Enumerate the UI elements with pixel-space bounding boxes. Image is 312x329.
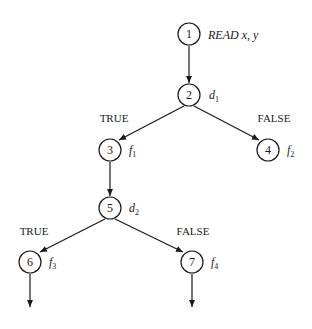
node-7: 7 f4 <box>181 251 218 273</box>
node-7-annotation: f4 <box>211 255 218 271</box>
node-6-label: 6 <box>27 255 33 269</box>
edge-5-7-false <box>115 219 183 252</box>
edge-2-4-false <box>194 106 259 140</box>
node-1: 1 READ x, y <box>178 23 259 45</box>
node-2-label: 2 <box>186 88 192 102</box>
node-3: 3 f1 <box>99 139 136 161</box>
edge-5-6-true <box>40 219 105 252</box>
control-flow-diagram: TRUE FALSE TRUE FALSE 1 READ x, y 2 d1 3… <box>0 0 312 329</box>
edge-2-3-true <box>119 106 184 140</box>
node-5-label: 5 <box>107 201 113 215</box>
branch-label-d2-false: FALSE <box>177 225 210 237</box>
node-1-annotation: READ x, y <box>207 28 259 42</box>
node-3-annotation: f1 <box>129 143 136 159</box>
node-4-annotation: f2 <box>287 143 294 159</box>
node-2: 2 d1 <box>178 84 219 106</box>
node-4-label: 4 <box>265 143 271 157</box>
node-3-label: 3 <box>107 143 113 157</box>
node-7-label: 7 <box>189 255 195 269</box>
node-1-label: 1 <box>186 27 192 41</box>
branch-label-d1-false: FALSE <box>258 112 291 124</box>
node-2-annotation: d1 <box>209 88 219 104</box>
node-6: 6 f3 <box>19 251 56 273</box>
branch-label-d2-true: TRUE <box>20 225 49 237</box>
branch-label-d1-true: TRUE <box>100 112 129 124</box>
node-5-annotation: d2 <box>129 201 139 217</box>
node-4: 4 f2 <box>257 139 294 161</box>
node-5: 5 d2 <box>99 197 139 219</box>
node-6-annotation: f3 <box>49 255 56 271</box>
